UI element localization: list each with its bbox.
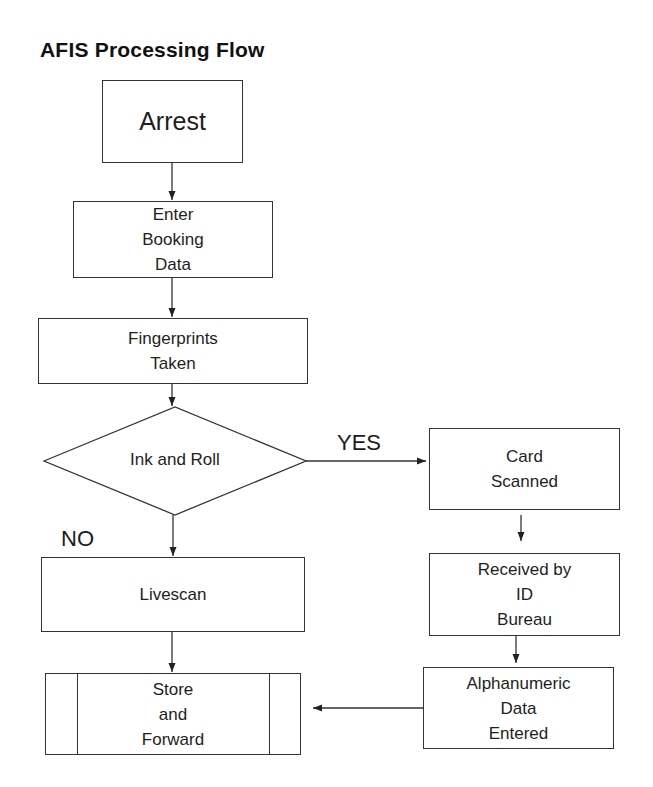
node-label: Fingerprints Taken xyxy=(128,326,218,376)
node-label: Livescan xyxy=(139,582,206,607)
node-card-scanned: Card Scanned xyxy=(429,428,620,510)
edge-label-no: NO xyxy=(61,526,94,552)
predefined-process-left-bar xyxy=(77,674,78,754)
decision-label: Ink and Roll xyxy=(95,450,255,470)
edge-label-yes: YES xyxy=(337,430,381,456)
node-label: Received by ID Bureau xyxy=(478,557,572,632)
node-fingerprints-taken: Fingerprints Taken xyxy=(38,318,308,384)
node-label: Store and Forward xyxy=(142,677,204,752)
node-arrest: Arrest xyxy=(102,80,243,163)
node-label: Card Scanned xyxy=(491,444,558,494)
node-store-and-forward: Store and Forward xyxy=(45,673,301,755)
predefined-process-right-bar xyxy=(269,674,270,754)
node-label: Enter Booking Data xyxy=(142,202,203,277)
node-label: Alphanumeric Data Entered xyxy=(467,671,571,746)
node-received-by-id-bureau: Received by ID Bureau xyxy=(429,553,620,636)
node-alphanumeric-data-entered: Alphanumeric Data Entered xyxy=(423,667,614,749)
node-label: Arrest xyxy=(139,109,206,134)
node-livescan: Livescan xyxy=(41,557,305,632)
node-enter-booking-data: Enter Booking Data xyxy=(73,201,273,278)
